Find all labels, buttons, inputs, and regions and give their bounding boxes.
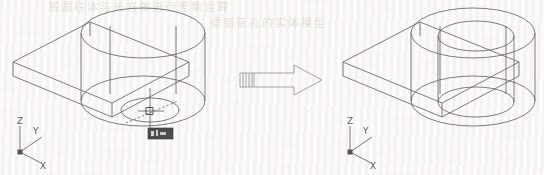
figure-canvas: 将圆柱体与长方体进行差集运算 得到带孔的实体模型 xyxy=(0,0,544,175)
tooltip-glyph-3 xyxy=(160,132,166,135)
selection-tooltip xyxy=(148,128,173,139)
ucs-right-x-label: X xyxy=(370,161,376,171)
left-model-view[interactable]: Z Y X xyxy=(0,0,272,175)
result-cylinder-top-ellipse xyxy=(411,8,535,58)
hole-bottom-ellipse xyxy=(438,87,514,117)
ucs-left-x-axis xyxy=(20,152,41,163)
ucs-right-z-label: Z xyxy=(347,116,353,126)
ucs-left-x-label: X xyxy=(40,161,46,171)
ucs-left-y-label: Y xyxy=(32,126,39,136)
right-model-view[interactable]: Z Y X xyxy=(330,0,544,175)
ucs-right-x-axis xyxy=(350,152,371,163)
tooltip-glyph-1 xyxy=(151,131,154,136)
hole-top-ellipse xyxy=(438,21,514,51)
ucs-left-origin-marker xyxy=(18,150,23,155)
cylinder-top-ellipse xyxy=(81,8,205,58)
ucs-left-z-label: Z xyxy=(17,116,23,126)
ucs-icon-left: Z Y X xyxy=(17,116,46,171)
tooltip-glyph-2 xyxy=(156,130,158,136)
result-box-top-face xyxy=(343,22,519,103)
transform-arrow xyxy=(236,58,332,102)
ucs-icon-right: Z Y X xyxy=(347,116,376,171)
ucs-right-origin-marker xyxy=(348,150,353,155)
ucs-right-y-axis xyxy=(350,137,372,152)
cylinder-bottom-ellipse xyxy=(81,76,205,126)
ucs-right-y-label: Y xyxy=(362,126,369,136)
ucs-left-y-axis xyxy=(20,137,42,152)
result-cylinder-bottom-ellipse xyxy=(411,76,535,126)
box-top-face xyxy=(13,22,189,103)
